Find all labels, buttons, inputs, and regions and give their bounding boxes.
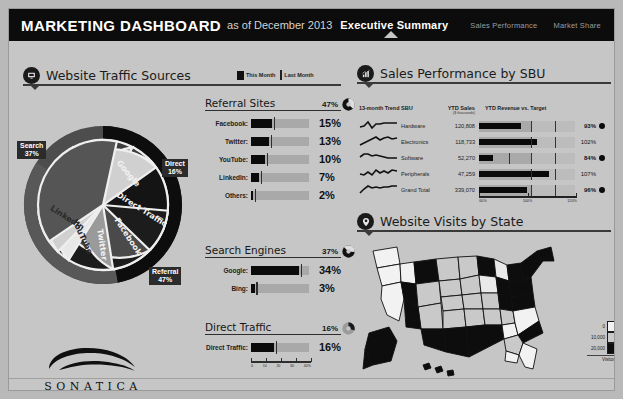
pie-callout-referral-label: Referral — [152, 268, 178, 275]
cell-sbu-peripherals: Peripherals — [401, 171, 443, 177]
axis-tick-40: 40% — [304, 364, 311, 368]
map-panel-title: Website Visits by State — [380, 214, 523, 229]
legend-row-20000: 20,000 — [587, 343, 615, 354]
row-direct-traffic: Direct Traffic: 16% — [205, 341, 341, 353]
axis-tick-0: 0 — [251, 364, 253, 368]
row-google-value: 34% — [319, 264, 341, 276]
col-header-trend: 13-month Trend — [359, 105, 401, 111]
traffic-pie-chart: Google Direct Traffic Facebook Twitter Y… — [23, 117, 188, 297]
row-facebook-bar — [251, 119, 309, 128]
cell-pct-electronics: 102% — [575, 139, 605, 145]
legend-last-month-label: Last Month — [284, 72, 313, 78]
traffic-axis-line — [251, 361, 311, 363]
legend-last-month: Last Month — [280, 70, 313, 80]
row-facebook: Facebook: 15% — [205, 117, 341, 129]
cell-sales-software: 52,270 — [443, 155, 479, 161]
alert-dot-grand-total — [599, 187, 605, 193]
row-youtube-label: YouTube: — [205, 156, 251, 163]
row-facebook-label: Facebook: — [205, 120, 251, 127]
row-facebook-value: 15% — [319, 117, 341, 129]
traffic-bar-axis: 0 10 20 30 40% — [251, 361, 311, 368]
cell-sales-grand-total: 339,070 — [443, 187, 479, 193]
chart-icon — [357, 65, 374, 82]
legend-value-20000: 20,000 — [591, 346, 605, 351]
legend-value-10000: 10,000 — [591, 335, 605, 340]
tab-executive-summary[interactable]: Executive Summary — [332, 19, 462, 31]
cell-sales-peripherals: 47,259 — [443, 171, 479, 177]
table-row[interactable]: Electronics 118,733 102% — [359, 134, 611, 150]
group-referral-header: Referral Sites 47% — [205, 97, 341, 111]
cell-sbu-software: Software — [401, 155, 443, 161]
donut-referral — [342, 97, 355, 110]
tab-market-share[interactable]: Market Share — [545, 21, 608, 30]
cell-sales-electronics: 118,733 — [443, 139, 479, 145]
traffic-panel-header: Website Traffic Sources — [23, 67, 191, 84]
row-others-value: 2% — [319, 189, 335, 201]
group-referral-name: Referral Sites — [205, 97, 275, 109]
logo-wordmark: SONATICA — [31, 380, 155, 391]
col-header-sales: YTD Sales ($ thousands) — [443, 105, 479, 115]
donut-direct — [342, 321, 355, 334]
row-twitter-value: 13% — [319, 135, 341, 147]
cell-pct-software: 84% — [575, 155, 605, 161]
cell-sales-hardware: 120,808 — [443, 123, 479, 129]
location-pin-icon — [357, 213, 374, 230]
page-title: MARKETING DASHBOARD — [21, 17, 221, 34]
cell-pct-peripherals: 107% — [575, 171, 605, 177]
footer-divider — [9, 378, 614, 379]
cell-sbu-grand-total: Grand Total — [401, 187, 443, 193]
sonatica-swoosh-icon — [31, 345, 155, 375]
map-legend: 0 10,000 20,000 Visitors — [587, 321, 615, 362]
legend-this-month-label: This Month — [246, 72, 275, 78]
tab-sales-performance[interactable]: Sales Performance — [462, 21, 545, 30]
traffic-panel-title: Website Traffic Sources — [46, 68, 191, 83]
nav-tabs: Executive Summary Sales Performance Mark… — [332, 9, 615, 41]
row-bing-label: Bing: — [205, 285, 251, 292]
bullet-hardware — [479, 121, 575, 132]
pct-value-electronics: 102% — [581, 139, 596, 145]
col-header-sbu: SBU — [401, 105, 443, 111]
axis-tick-20: 20 — [276, 364, 280, 368]
col-header-sales-sub: ($ thousands) — [443, 111, 475, 115]
group-direct-header: Direct Traffic 16% — [205, 321, 341, 335]
page-subtitle: as of December 2013 — [227, 19, 332, 31]
cell-sbu-hardware: Hardware — [401, 123, 443, 129]
legend-swatch-dark — [607, 343, 615, 354]
row-twitter: Twitter: 13% — [205, 135, 341, 147]
sbu-axis-tick-60: 60% — [479, 199, 487, 203]
row-youtube-value: 10% — [319, 153, 341, 165]
company-logo: SONATICA — [31, 345, 155, 391]
sbu-panel-title: Sales Performance by SBU — [380, 66, 545, 81]
row-google-bar — [251, 266, 309, 275]
row-twitter-bar — [251, 137, 309, 146]
row-bing: Bing: 3% — [205, 282, 341, 294]
row-google-label: Google: — [205, 267, 251, 274]
pie-callout-referral: Referral 47% — [149, 267, 181, 285]
legend-row-0: 0 — [587, 321, 615, 332]
sbu-table: 13-month Trend SBU YTD Sales ($ thousand… — [359, 105, 611, 198]
table-row[interactable]: Peripherals 47,259 107% — [359, 166, 611, 182]
row-others-bar — [251, 191, 309, 200]
group-direct-traffic: Direct Traffic 16% Direct Traffic: 16% — [205, 321, 341, 353]
legend-value-0: 0 — [602, 324, 605, 329]
row-bing-value: 3% — [319, 282, 335, 294]
row-bing-bar — [251, 284, 309, 293]
app-header: MARKETING DASHBOARD as of December 2013 … — [9, 9, 614, 41]
table-row[interactable]: Hardware 120,808 93% — [359, 118, 611, 134]
pct-value-hardware: 93% — [584, 123, 596, 129]
pie-callout-direct: Direct 16% — [162, 159, 188, 177]
cell-pct-grand-total: 96% — [575, 187, 605, 193]
bullet-electronics — [479, 137, 575, 148]
table-row[interactable]: Software 52,270 84% — [359, 150, 611, 166]
sbu-panel-header: Sales Performance by SBU — [357, 65, 545, 82]
legend-caption: Visitors — [587, 355, 615, 362]
map-panel-header: Website Visits by State — [357, 213, 523, 230]
bullet-peripherals — [479, 169, 575, 180]
axis-tick-30: 30 — [290, 364, 294, 368]
group-direct-percent: 16% — [322, 324, 338, 333]
alert-dot-hardware — [599, 123, 605, 129]
monitor-icon — [23, 67, 40, 84]
row-youtube-bar — [251, 155, 309, 164]
cell-pct-hardware: 93% — [575, 123, 605, 129]
us-choropleth-map[interactable] — [361, 237, 576, 377]
